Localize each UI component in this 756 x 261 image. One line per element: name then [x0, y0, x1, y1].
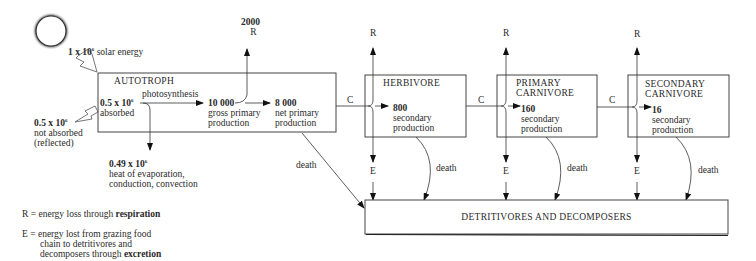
primary-carnivore-death-label: death [567, 163, 588, 173]
herbivore-death-label: death [436, 163, 457, 173]
primary-carnivore-e-label: E [503, 166, 509, 176]
primary-carnivore-production: 160 secondary production [521, 104, 562, 134]
herbivore-title: HERBIVORE [383, 78, 440, 88]
net-primary-production: 8 000 net primary production [275, 98, 319, 128]
herbivore-r-label: R [370, 28, 376, 38]
herbivore-e-label: E [370, 166, 376, 176]
herbivore-c-label: C [347, 95, 353, 105]
sun-icon [32, 12, 70, 50]
primary-carnivore-c-label: C [478, 95, 484, 105]
secondary-carnivore-c-label: C [609, 95, 615, 105]
autotroph-title: AUTOTROPH [114, 76, 174, 86]
solar-energy-label: 1 x 106 solar energy [68, 47, 143, 57]
heat-loss-label: 0.49 x 106 heat of evaporation, conducti… [109, 159, 198, 189]
photosynthesis-label: photosynthesis [142, 89, 198, 99]
primary-carnivore-r-label: R [503, 28, 509, 38]
energy-flow-diagram: 1 x 106 solar energy 0.5 x 106 not absor… [0, 0, 756, 261]
primary-carnivore-title: PRIMARY CARNIVORE [516, 78, 574, 98]
secondary-carnivore-title: SECONDARY CARNIVORE [645, 79, 705, 99]
secondary-carnivore-e-label: E [634, 166, 640, 176]
herbivore-production: 800 secondary production [393, 103, 434, 133]
autotroph-respiration: 2000 R [241, 17, 260, 37]
reflected-label: 0.5 x 106 not absorbed (reflected) [34, 118, 83, 148]
secondary-carnivore-death-label: death [698, 165, 719, 175]
gross-primary-production: 10 000 gross primary production [208, 98, 261, 128]
absorbed-label: 0.5 x 106 absorbed [100, 98, 134, 118]
autotroph-death-label: death [296, 160, 317, 170]
secondary-carnivore-r-label: R [634, 29, 640, 39]
secondary-carnivore-production: 16 secondary production [652, 105, 693, 135]
detritivores-title: DETRITIVORES AND DECOMPOSERS [365, 212, 728, 222]
legend-respiration: R = energy loss through respiration [22, 209, 160, 219]
legend-excretion: E = energy lost from grazing food chain … [22, 229, 161, 259]
